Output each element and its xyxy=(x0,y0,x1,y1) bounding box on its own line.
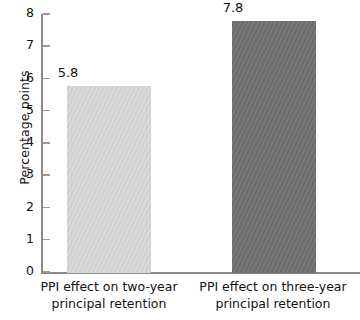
bar-fill xyxy=(67,86,151,273)
bar-three-year xyxy=(232,21,316,273)
plot-area xyxy=(41,14,359,273)
y-tick-label: 1 xyxy=(0,231,34,246)
y-tick-label: 0 xyxy=(0,263,34,278)
category-label-line: PPI effect on two-year xyxy=(24,278,194,295)
y-tick-label: 8 xyxy=(0,5,34,20)
bar-fill xyxy=(232,21,316,273)
bar-two-year xyxy=(67,86,151,273)
category-label-line: principal retention xyxy=(24,295,194,312)
y-tick-label: 3 xyxy=(0,166,34,181)
y-tick-label: 7 xyxy=(0,37,34,52)
y-tick-label: 2 xyxy=(0,199,34,214)
bar-chart: Percentage points 012345678 5.8 7.8 PPI … xyxy=(0,0,360,320)
category-label-two-year: PPI effect on two-year principal retenti… xyxy=(24,278,194,312)
value-label-two-year: 5.8 xyxy=(26,65,110,80)
category-label-three-year: PPI effect on three-year principal reten… xyxy=(186,278,360,312)
category-label-line: principal retention xyxy=(186,295,360,312)
y-tick-label: 5 xyxy=(0,102,34,117)
value-label-three-year: 7.8 xyxy=(191,0,275,15)
category-label-line: PPI effect on three-year xyxy=(186,278,360,295)
y-tick-label: 4 xyxy=(0,134,34,149)
